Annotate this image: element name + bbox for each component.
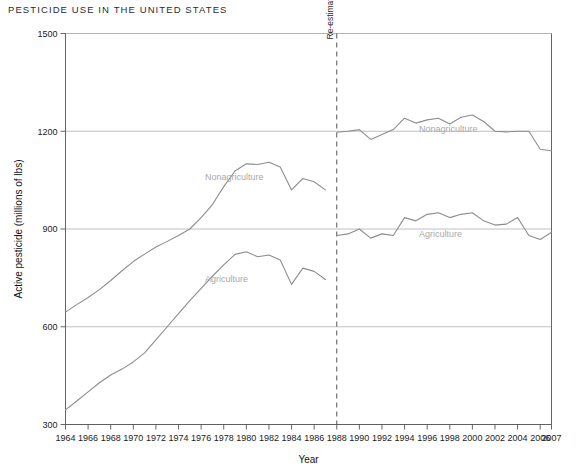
y-tick-label-900: 900 (42, 224, 57, 234)
x-axis-title: Year (298, 454, 319, 465)
x-tick-label-1984: 1984 (282, 433, 302, 443)
series-label-ag-left: Agriculture (205, 274, 248, 284)
x-tick-label-1972: 1972 (146, 433, 166, 443)
x-tick-label-2004: 2004 (508, 433, 528, 443)
x-tick-label-1970: 1970 (123, 433, 143, 443)
x-tick-label-1996: 1996 (417, 433, 437, 443)
x-tick-label-1994: 1994 (395, 433, 415, 443)
x-tick-label-1998: 1998 (440, 433, 460, 443)
x-tick-label-1968: 1968 (101, 433, 121, 443)
series-label-nonag-right: Nonagriculture (419, 124, 478, 134)
y-tick-label-1200: 1200 (37, 127, 57, 137)
y-axis-title: Active pesticide (millions of lbs) (13, 160, 24, 299)
x-tick-label-1990: 1990 (349, 433, 369, 443)
series-line-nonagriculture-pre-1988 (66, 162, 326, 312)
series-label-nonag-left: Nonagriculture (205, 172, 264, 182)
y-tick-label-1500: 1500 (37, 29, 57, 39)
x-tick-label-1992: 1992 (372, 433, 392, 443)
series-label-ag-right: Agriculture (419, 229, 462, 239)
x-tick-label-1978: 1978 (214, 433, 234, 443)
x-tick-label-1982: 1982 (259, 433, 279, 443)
x-tick-label-1966: 1966 (78, 433, 98, 443)
x-tick-label-1988: 1988 (327, 433, 347, 443)
x-tick-label-2000: 2000 (462, 433, 482, 443)
series-line-agriculture-pre-1988 (66, 252, 326, 410)
x-tick-label-2007: 2007 (541, 433, 561, 443)
x-tick-label-1976: 1976 (191, 433, 211, 443)
x-tick-label-1980: 1980 (236, 433, 256, 443)
y-tick-label-600: 600 (42, 322, 57, 332)
x-tick-label-2002: 2002 (485, 433, 505, 443)
chart-plot-area: 3006009001200150019641966196819701972197… (0, 0, 581, 473)
reestimate-annotation-label: Re-estimated 1988 (325, 0, 335, 40)
x-tick-label-1974: 1974 (169, 433, 189, 443)
x-tick-label-1964: 1964 (55, 433, 75, 443)
x-tick-label-1986: 1986 (304, 433, 324, 443)
chart-container: PESTICIDE USE IN THE UNITED STATES 30060… (0, 0, 581, 473)
y-tick-label-300: 300 (42, 420, 57, 430)
